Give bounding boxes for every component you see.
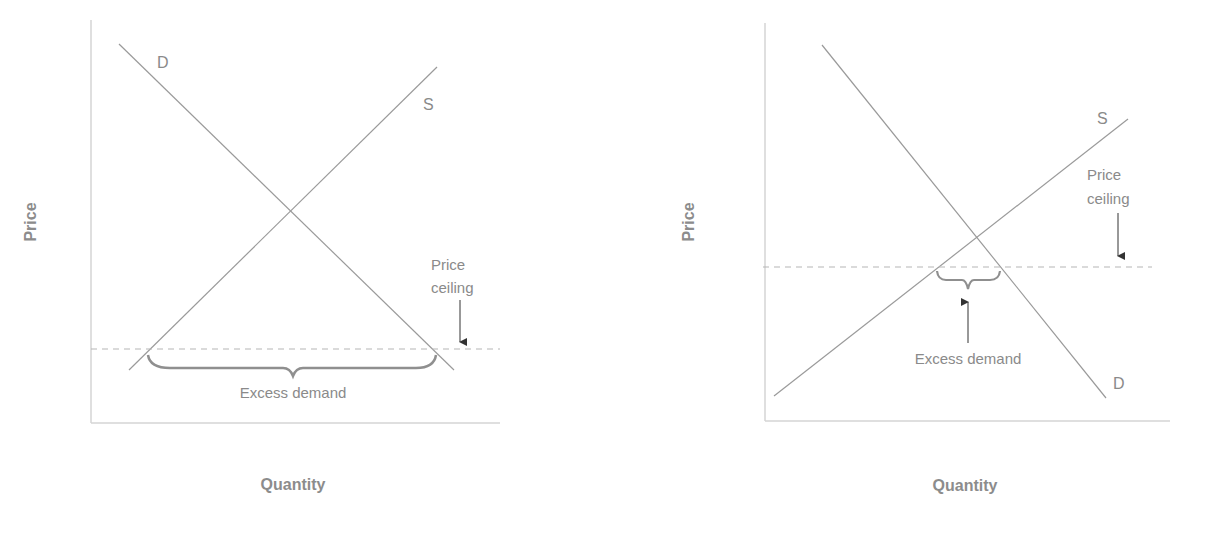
right-price-ceiling-label-line1: Price <box>1087 166 1121 183</box>
right-excess-demand-brace <box>937 271 1000 289</box>
right-demand-curve <box>822 45 1106 398</box>
left-demand-label: D <box>157 54 169 71</box>
left-supply-label: S <box>423 96 434 113</box>
left-supply-curve <box>129 67 437 370</box>
right-price-ceiling-label-line2: ceiling <box>1087 190 1130 207</box>
left-price-ceiling-label-line2: ceiling <box>431 279 474 296</box>
left-chart: D S Price ceiling Excess demand Price Qu… <box>22 20 500 493</box>
right-excess-demand-label: Excess demand <box>915 350 1022 367</box>
right-supply-label: S <box>1097 110 1108 127</box>
left-demand-curve <box>119 44 454 370</box>
right-chart: S D Price ceiling Excess demand Price Qu… <box>680 23 1170 494</box>
left-price-ceiling-label-line1: Price <box>431 256 465 273</box>
right-demand-label: D <box>1113 375 1125 392</box>
right-y-axis-label: Price <box>680 202 697 241</box>
left-excess-demand-label: Excess demand <box>240 384 347 401</box>
left-excess-demand-brace <box>148 355 436 376</box>
right-x-axis-label: Quantity <box>933 477 998 494</box>
price-ceiling-figure: D S Price ceiling Excess demand Price Qu… <box>0 0 1225 536</box>
left-y-axis-label: Price <box>22 202 39 241</box>
left-x-axis-label: Quantity <box>261 476 326 493</box>
